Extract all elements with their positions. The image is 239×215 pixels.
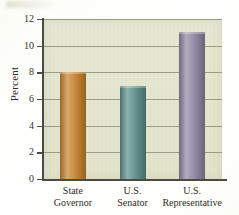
y-axis-tick	[37, 126, 42, 127]
y-axis-tick	[37, 19, 42, 20]
y-axis-tick-label: 2	[8, 146, 34, 157]
bar-cylinder-shading	[120, 86, 146, 179]
scan-artifact	[6, 1, 58, 8]
y-axis-tick-label: 10	[8, 40, 34, 51]
y-axis-tick	[37, 46, 42, 47]
y-axis-tick-label: 4	[8, 120, 34, 131]
bar-chart-figure: Percent 024681012 State GovernorU.S. Sen…	[0, 0, 239, 215]
y-axis-tick	[37, 72, 42, 73]
y-axis-title: Percent	[8, 49, 20, 119]
y-axis-line	[42, 18, 44, 180]
bar-cylinder-shading	[179, 32, 205, 179]
y-axis-tick-label: 0	[8, 173, 34, 184]
bar	[120, 86, 146, 179]
y-axis-tick-label: 6	[8, 93, 34, 104]
y-axis-tick-label: 12	[8, 13, 34, 24]
bar-top-highlight	[60, 72, 86, 74]
y-axis-tick	[37, 179, 42, 180]
x-axis-line	[42, 179, 227, 181]
y-axis-tick	[37, 99, 42, 100]
x-axis-category-label: U.S. Representative	[142, 185, 239, 208]
bar-top-highlight	[179, 32, 205, 34]
bar-top-highlight	[120, 86, 146, 88]
bar-cylinder-shading	[60, 72, 86, 179]
y-axis-tick	[37, 152, 42, 153]
gridline	[43, 19, 222, 20]
plot-area	[43, 19, 222, 179]
y-axis-tick-label: 8	[8, 66, 34, 77]
bar	[179, 32, 205, 179]
bar	[60, 72, 86, 179]
